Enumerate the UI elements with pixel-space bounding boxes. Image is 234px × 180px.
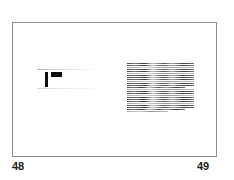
left-page-text-fragment xyxy=(37,69,97,95)
text-line xyxy=(127,65,194,66)
faint-text-rule-bottom xyxy=(37,88,97,89)
text-line xyxy=(127,103,194,104)
text-line xyxy=(127,93,194,94)
left-page xyxy=(13,23,115,156)
text-line xyxy=(127,89,194,90)
page-spread-frame xyxy=(12,22,217,157)
text-line xyxy=(127,73,194,74)
text-line xyxy=(127,85,194,86)
text-line xyxy=(127,107,194,108)
text-line xyxy=(127,109,186,110)
text-line xyxy=(127,105,194,106)
text-line xyxy=(127,111,169,112)
text-line xyxy=(127,91,194,92)
text-line xyxy=(127,95,194,96)
page-number-right: 49 xyxy=(197,160,209,173)
heading-mark-bar xyxy=(51,72,62,77)
right-page xyxy=(115,23,217,156)
text-line xyxy=(127,63,194,64)
text-line xyxy=(127,99,194,100)
text-line xyxy=(127,77,194,78)
text-line xyxy=(127,97,194,98)
heading-mark-stem xyxy=(45,72,48,87)
right-page-text-block xyxy=(127,63,194,115)
text-line xyxy=(127,67,194,68)
text-line xyxy=(127,71,194,72)
text-line xyxy=(127,83,194,84)
text-line xyxy=(127,69,194,70)
page-number-left: 48 xyxy=(12,160,24,173)
text-line xyxy=(127,87,186,88)
text-line xyxy=(127,81,194,82)
faint-text-rule-top xyxy=(37,69,97,70)
text-line xyxy=(127,75,194,76)
text-line xyxy=(127,79,194,80)
text-line xyxy=(127,101,194,102)
